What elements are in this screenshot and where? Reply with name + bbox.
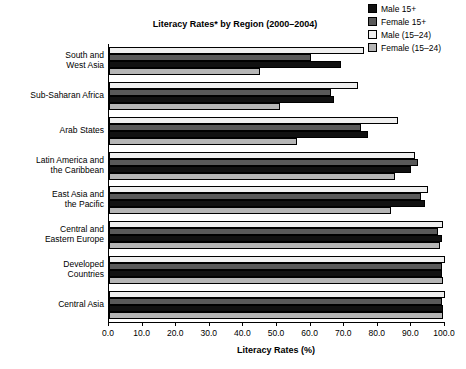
bar[interactable] xyxy=(109,298,442,305)
y-axis-label: Developed Countries xyxy=(0,259,104,279)
bar[interactable] xyxy=(109,96,334,103)
x-tick-mark xyxy=(276,323,277,326)
x-tick-mark xyxy=(108,323,109,326)
x-tick-mark xyxy=(310,323,311,326)
legend-item[interactable]: Female 15+ xyxy=(368,16,464,27)
bar[interactable] xyxy=(109,291,445,298)
bar-group xyxy=(109,256,445,284)
x-tick-mark xyxy=(343,323,344,326)
x-tick-mark xyxy=(377,323,378,326)
bar[interactable] xyxy=(109,277,443,284)
bar[interactable] xyxy=(109,117,398,124)
legend-swatch-icon xyxy=(368,17,377,26)
bar[interactable] xyxy=(109,221,443,228)
y-axis-label: South and West Asia xyxy=(0,50,104,70)
y-axis-label: Arab States xyxy=(0,125,104,135)
bar[interactable] xyxy=(109,235,442,242)
x-tick-mark xyxy=(410,323,411,326)
x-tick-mark xyxy=(242,323,243,326)
bar[interactable] xyxy=(109,138,297,145)
bar[interactable] xyxy=(109,166,411,173)
bar[interactable] xyxy=(109,54,311,61)
legend-item-label: Male 15+ xyxy=(381,4,416,14)
y-axis-category-labels: South and West AsiaSub-Saharan AfricaAra… xyxy=(0,44,104,322)
bar[interactable] xyxy=(109,256,445,263)
x-tick-mark xyxy=(444,323,445,326)
bar-group xyxy=(109,47,445,75)
x-tick-mark xyxy=(142,323,143,326)
legend-item[interactable]: Male (15–24) xyxy=(368,29,464,40)
legend-item-label: Male (15–24) xyxy=(381,30,431,40)
bar-group xyxy=(109,82,445,110)
bar[interactable] xyxy=(109,207,391,214)
bar[interactable] xyxy=(109,270,442,277)
x-tick-label: 100.0 xyxy=(424,328,464,338)
bar[interactable] xyxy=(109,152,415,159)
plot-area xyxy=(108,44,445,323)
legend-swatch-icon xyxy=(368,30,377,39)
legend-swatch-icon xyxy=(368,4,377,13)
bar[interactable] xyxy=(109,61,341,68)
x-axis-ticks: 0.010.020.030.040.050.060.070.080.090.01… xyxy=(108,323,444,345)
bar[interactable] xyxy=(109,124,361,131)
bar-group xyxy=(109,152,445,180)
bar-group xyxy=(109,291,445,319)
bar[interactable] xyxy=(109,186,428,193)
bar[interactable] xyxy=(109,82,358,89)
y-axis-label: Central and Eastern Europe xyxy=(0,224,104,244)
bar[interactable] xyxy=(109,103,280,110)
bar[interactable] xyxy=(109,68,260,75)
x-tick-mark xyxy=(209,323,210,326)
chart-footnote xyxy=(12,362,462,369)
bar[interactable] xyxy=(109,312,443,319)
bar[interactable] xyxy=(109,47,364,54)
bar[interactable] xyxy=(109,228,438,235)
literacy-rates-chart: Male 15+Female 15+Male (15–24)Female (15… xyxy=(0,0,466,369)
bar[interactable] xyxy=(109,193,421,200)
bar[interactable] xyxy=(109,200,425,207)
legend-item[interactable]: Male 15+ xyxy=(368,3,464,14)
bar-group xyxy=(109,117,445,145)
bar-group xyxy=(109,186,445,214)
bar[interactable] xyxy=(109,173,395,180)
y-axis-label: East Asia and the Pacific xyxy=(0,189,104,209)
bar[interactable] xyxy=(109,242,440,249)
chart-title: Literacy Rates* by Region (2000–2004) xyxy=(110,19,360,29)
bar[interactable] xyxy=(109,305,443,312)
y-axis-label: Latin America and the Caribbean xyxy=(0,155,104,175)
bar[interactable] xyxy=(109,89,331,96)
y-axis-label: Central Asia xyxy=(0,299,104,309)
y-axis-label: Sub-Saharan Africa xyxy=(0,90,104,100)
bar[interactable] xyxy=(109,131,368,138)
bar[interactable] xyxy=(109,263,442,270)
legend-item-label: Female 15+ xyxy=(381,17,426,27)
x-axis-title: Literacy Rates (%) xyxy=(108,345,444,355)
bar-group xyxy=(109,221,445,249)
x-tick-mark xyxy=(175,323,176,326)
bar[interactable] xyxy=(109,159,418,166)
